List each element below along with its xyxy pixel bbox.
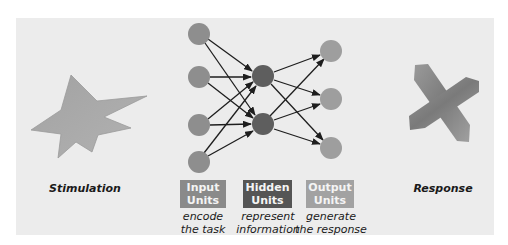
output-units-description: generate the response [294,210,368,236]
hidden-units-subtitle: Units [243,194,292,207]
response-label: Response [398,182,488,195]
hidden-nodes [252,65,274,135]
output-node [320,88,342,110]
hidden-node [252,65,274,87]
network-graphic [0,0,508,245]
hidden-output-connections [270,55,324,144]
input-hidden-connections [204,39,256,156]
output-units-subtitle: Units [306,194,354,207]
input-desc-line2: the task [168,223,238,236]
star-shape [31,75,147,158]
hidden-node [252,113,274,135]
input-node [188,66,210,88]
neural-network-diagram: Stimulation Response Input Units encode … [0,0,508,245]
output-node [320,40,342,62]
x-shape [409,64,479,142]
input-node [188,114,210,136]
input-node [188,151,210,173]
input-units-box: Input Units [180,180,226,208]
input-desc-line1: encode [168,210,238,223]
output-desc-line2: the response [294,223,368,236]
input-units-title: Input [180,181,226,194]
stimulation-label: Stimulation [40,182,130,195]
hidden-units-box: Hidden Units [243,180,292,208]
output-node [320,137,342,159]
output-units-title: Output [306,181,354,194]
hidden-units-title: Hidden [243,181,292,194]
output-desc-line1: generate [294,210,368,223]
input-units-description: encode the task [168,210,238,236]
output-units-box: Output Units [306,180,354,208]
input-node [188,23,210,45]
input-units-subtitle: Units [180,194,226,207]
output-nodes [320,40,342,159]
